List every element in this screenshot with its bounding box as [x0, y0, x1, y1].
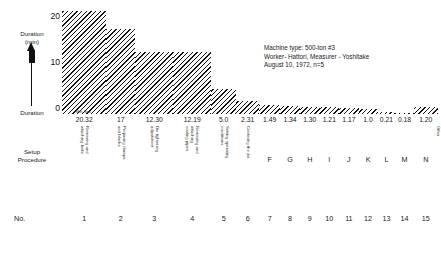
number-cell: 8 — [280, 214, 300, 226]
x-axis-value: 1.20 — [414, 114, 438, 126]
procedure-label-rotated: Removing andattachingcooling pipes — [185, 126, 199, 184]
procedure-label: Centering the die — [236, 126, 259, 186]
setup-duration-chart: Duration (min) Duration Setup Procedure … — [0, 0, 441, 253]
procedure-label-rotated: Removing andattaching bolts — [79, 126, 89, 184]
number-cell: 11 — [339, 214, 359, 226]
number-cell: 7 — [259, 214, 280, 226]
procedure-label: Setting operatingconditions — [211, 126, 236, 186]
plot-area — [62, 14, 438, 114]
procedure-label: H — [300, 126, 320, 186]
procedure-label: J — [339, 126, 359, 186]
procedure-letter: K — [359, 155, 378, 164]
procedure-letter: J — [339, 155, 359, 164]
procedure-letter: L — [377, 155, 395, 164]
x-axis-value-text: 1.20 — [408, 116, 441, 123]
bar — [259, 105, 280, 114]
procedure-label: Removing andattachingcooling pipes — [173, 126, 211, 186]
procedure-letter: F — [259, 155, 280, 164]
procedure-label-line: Centering the die — [245, 126, 250, 184]
number-cell: 4 — [173, 214, 211, 226]
bar — [280, 106, 300, 114]
bar — [300, 107, 320, 115]
no-row-label: No. — [14, 214, 25, 223]
note-worker-measurer: Worker- Hattori, Measurer - Yoshitake — [264, 53, 369, 62]
x-axis-value-row: Min.Sec.20.321712.3012.195.02.311.491.34… — [62, 114, 438, 126]
note-machine-type: Machine type: 500-ton #3 — [264, 44, 335, 53]
procedure-label: Preparing clampsand blocks — [106, 126, 135, 186]
y-tick-20: 20 — [38, 11, 60, 21]
bar — [414, 107, 438, 114]
bar — [106, 29, 135, 114]
bar — [173, 52, 211, 114]
procedure-label-line: Die tightening — [154, 126, 159, 184]
bar — [236, 101, 259, 114]
number-cell: 9 — [300, 214, 320, 226]
procedure-label: F — [259, 126, 280, 186]
procedure-label: Die tighteningadjustment — [135, 126, 173, 186]
bar — [320, 107, 340, 114]
minsec-unit-header: Min.Sec. — [62, 109, 106, 114]
procedure-label-line: attaching — [190, 126, 195, 184]
procedure-label: N — [414, 126, 438, 186]
number-cell: 5 — [211, 214, 236, 226]
procedure-label-line: Removing and — [84, 126, 89, 184]
y-axis-caption-duration: Duration — [8, 30, 56, 38]
y-tick-0: 0 — [38, 103, 60, 113]
procedure-label: M — [395, 126, 413, 186]
number-cell: 10 — [320, 214, 340, 226]
setup-procedure-caption-line1: Setup — [6, 148, 58, 156]
number-cell: 12 — [359, 214, 378, 226]
procedure-letter: N — [414, 155, 438, 164]
procedure-label: K — [359, 126, 378, 186]
procedure-letter: G — [280, 155, 300, 164]
procedure-label-line: Other — [436, 126, 441, 184]
number-cell: 1 — [62, 214, 106, 226]
bar — [135, 52, 173, 115]
procedure-label-rotated: Centering the die — [245, 126, 250, 184]
bar — [211, 89, 236, 114]
procedure-label: G — [280, 126, 300, 186]
procedure-label-row: Removing andattaching boltsPreparing cla… — [62, 126, 438, 186]
number-cell: 6 — [236, 214, 259, 226]
procedure-label: I — [320, 126, 340, 186]
procedure-label-line: adjustment — [150, 126, 155, 184]
procedure-label: L — [377, 126, 395, 186]
procedure-label-line: attaching bolts — [79, 126, 84, 184]
number-cell: 15 — [414, 214, 438, 226]
procedure-label-rotated: Setting operatingconditions — [219, 126, 229, 184]
bar-series — [62, 14, 438, 114]
procedure-letter: M — [395, 155, 413, 164]
setup-procedure-caption-line2: Procedure — [6, 156, 58, 164]
procedure-letter: I — [320, 155, 340, 164]
number-cell: 3 — [135, 214, 173, 226]
duration-up-arrow-icon — [31, 50, 32, 106]
procedure-label-line: Removing and — [195, 126, 200, 184]
bar — [62, 11, 106, 114]
number-row: 123456789101112131415 — [62, 214, 438, 226]
procedure-letter: H — [300, 155, 320, 164]
y-tick-10: 10 — [38, 57, 60, 67]
procedure-label-line: conditions — [219, 126, 224, 184]
procedure-label-rotated: Preparing clampsand blocks — [116, 126, 126, 184]
procedure-label-rotated: Die tighteningadjustment — [150, 126, 160, 184]
note-date-sample: August 10, 1972, n=5 — [264, 61, 324, 70]
procedure-label-rotated: Other — [436, 126, 441, 184]
procedure-label-line: cooling pipes — [185, 126, 190, 184]
procedure-label: Removing andattaching bolts — [62, 126, 106, 186]
number-cell: 14 — [395, 214, 413, 226]
number-cell: 13 — [377, 214, 395, 226]
number-cell: 2 — [106, 214, 135, 226]
